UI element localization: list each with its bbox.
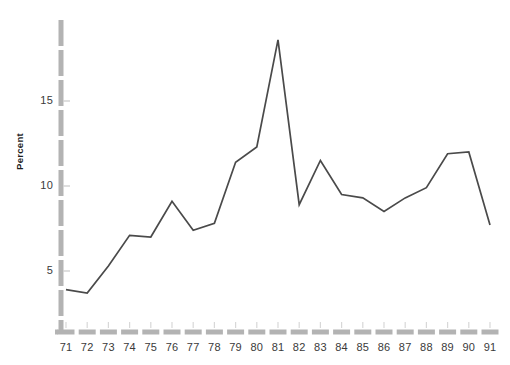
y-tick-marks [63, 101, 70, 271]
data-series-line [66, 40, 490, 293]
x-tick-marks [66, 322, 490, 328]
x-tick-label: 91 [478, 341, 502, 353]
line-chart: Percent 51015 71727374757677787980818283… [0, 0, 510, 365]
y-tick-label: 15 [31, 94, 53, 106]
y-tick-label: 5 [31, 264, 53, 276]
y-tick-label: 10 [31, 179, 53, 191]
chart-plot-area [0, 0, 510, 365]
